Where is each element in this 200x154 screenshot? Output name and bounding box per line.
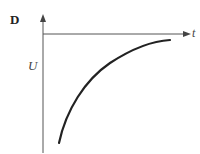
- data-curve: [59, 40, 170, 143]
- plot-area: [0, 0, 200, 154]
- y-axis-arrow-icon: [40, 14, 46, 22]
- x-axis-arrow-icon: [183, 31, 191, 37]
